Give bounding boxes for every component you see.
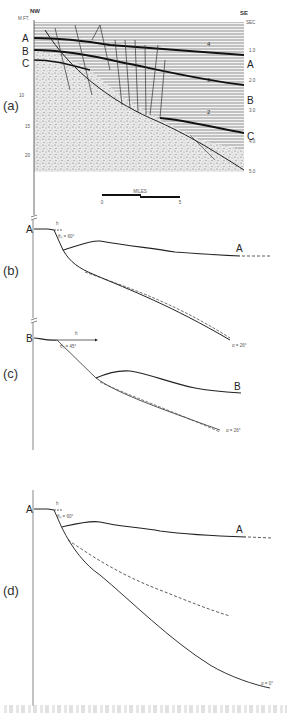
horizon-label-c-left: C: [22, 58, 29, 69]
horizon-label-b-c: B: [26, 333, 33, 344]
theta-label-b: θ₀ = 60°: [58, 234, 75, 239]
alpha-label-d: α = 0°: [261, 681, 273, 686]
time-unit-label: SEC: [246, 20, 256, 25]
panel-b: A h θ₀ = 60° A α = 26° (b): [3, 221, 272, 348]
depth-tick-15: 15: [25, 124, 31, 129]
horizon-label-a-b: A: [26, 224, 33, 235]
panel-label-a: (a): [3, 98, 19, 113]
horizon-label-a-left: A: [22, 33, 29, 44]
figure: NW M FT. 10 15 20 A B C (a) SE SEC 1.0 2…: [0, 0, 291, 716]
horizon-label-c-right: C: [247, 131, 254, 142]
time-tick-1: 1.0: [249, 48, 256, 53]
direction-se: SE: [240, 10, 248, 16]
time-tick-2: 2.0: [249, 78, 256, 83]
horizon-label-b-end-c: B: [234, 381, 241, 392]
horizon-label-a-d: A: [26, 504, 33, 515]
panel-label-c: (c): [3, 366, 18, 381]
theta-label-d: θ₀ = 60°: [57, 514, 74, 519]
seismic-section-panel-a: NW M FT. 10 15 20 A B C (a) SE SEC 1.0 2…: [3, 8, 256, 215]
depth-unit-label: M FT.: [18, 16, 29, 21]
horizon-label-a-right: A: [247, 59, 254, 70]
time-tick-3: 3.0: [249, 108, 256, 113]
horizon-label-a-end-d: A: [236, 524, 243, 535]
panel-c: B h θ₀ = 45° B α = 26° (c): [3, 331, 241, 433]
h-label-b: h: [56, 221, 59, 226]
h-label-c: h: [75, 331, 78, 336]
alpha-label-b: α = 26°: [232, 343, 247, 348]
scale-bar-start: 0: [101, 200, 104, 205]
panel-label-d: (d): [3, 583, 19, 598]
depth-tick-20: 20: [25, 153, 31, 158]
horizon-label-b-left: B: [22, 46, 29, 57]
scale-bar-end: 5: [179, 200, 182, 205]
scale-bar-title: MILES: [133, 189, 147, 194]
panel-d: A h θ₀ = 60° A α = 0° (d): [3, 501, 273, 688]
alpha-label-c: α = 26°: [226, 428, 241, 433]
scale-bar: MILES 0 5: [101, 189, 182, 205]
horizon-label-a-end-b: A: [236, 243, 243, 254]
time-tick-5: 5.0: [249, 169, 256, 174]
axis-break-marks: [31, 215, 37, 706]
figure-caption-cropped: [4, 705, 287, 713]
panel-label-b: (b): [3, 263, 19, 278]
h-label-d: h: [56, 501, 59, 506]
direction-nw: NW: [30, 8, 40, 14]
depth-tick-10: 10: [19, 93, 25, 98]
seismic-image: [34, 22, 244, 172]
horizon-label-b-right: B: [247, 95, 254, 106]
